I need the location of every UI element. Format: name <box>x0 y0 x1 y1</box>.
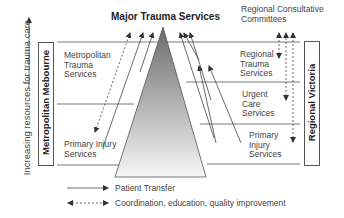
label-line: Services <box>64 70 111 80</box>
region-label-regional: Regional Victoria <box>306 42 317 164</box>
legend-coordination: Coordination, education, quality improve… <box>115 199 286 209</box>
label-line: Services <box>242 109 275 119</box>
label-line: Services <box>64 150 116 160</box>
regional-committees-label: Regional Consultative Committees <box>241 5 324 24</box>
trauma-pyramid <box>115 27 206 177</box>
regional-trauma-services-label: Regional Trauma Services <box>240 50 274 79</box>
regional-committees-line-2: Committees <box>241 15 324 25</box>
metro-primary-injury-services-label: Primary Injury Services <box>64 140 116 159</box>
y-axis-label: Increasing resources for trauma care <box>21 3 32 193</box>
urgent-care-services-label: Urgent Care Services <box>242 90 275 119</box>
transfer-arrow-urgent-care <box>190 33 211 100</box>
label-line: Services <box>249 150 282 160</box>
metro-trauma-services-label: Metropolitan Trauma Services <box>64 51 111 80</box>
coordination-arrow-metro <box>95 33 130 132</box>
label-line: Services <box>240 69 274 79</box>
legend-patient-transfer: Patient Transfer <box>115 184 175 194</box>
diagram-title: Major Trauma Services <box>111 11 220 22</box>
regional-primary-injury-services-label: Primary Injury Services <box>249 131 282 160</box>
region-label-metro: Metropolitan Mebourne <box>40 42 51 164</box>
